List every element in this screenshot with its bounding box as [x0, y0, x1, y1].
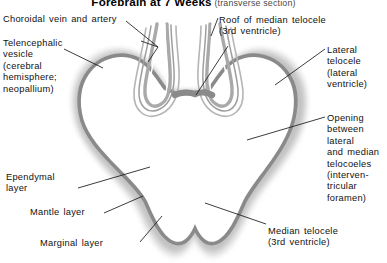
label-lateral-telocele: Lateral telocele (lateral ventricle) — [327, 45, 367, 91]
label-median-telocele: Median telocele (3rd ventricle) — [268, 226, 338, 249]
label-roof-of-median-telocele: Roof of median telocele (3rd ventricle) — [219, 15, 326, 38]
ependymal-layer — [81, 57, 294, 242]
roof-of-median-telocele — [175, 93, 212, 95]
figure-title-main: Forebrain at 7 Weeks — [91, 0, 211, 8]
label-telencephalic-vesicle: Telencephalic vesicle (cerebral hemisphe… — [3, 38, 63, 95]
label-ependymal-layer: Ependymal layer — [6, 172, 55, 195]
label-interventricular-foramen: Opening between lateral and median teloc… — [327, 113, 379, 204]
label-mantle-layer: Mantle layer — [30, 207, 85, 218]
label-marginal-layer: Marginal layer — [40, 238, 103, 249]
anatomical-figure: Forebrain at 7 Weeks (transverse section… — [0, 0, 387, 263]
label-choroidal-vein-and-artery: Choroidal vein and artery — [3, 14, 117, 25]
figure-title: Forebrain at 7 Weeks (transverse section… — [0, 0, 387, 8]
figure-title-sub: (transverse section) — [212, 0, 296, 8]
